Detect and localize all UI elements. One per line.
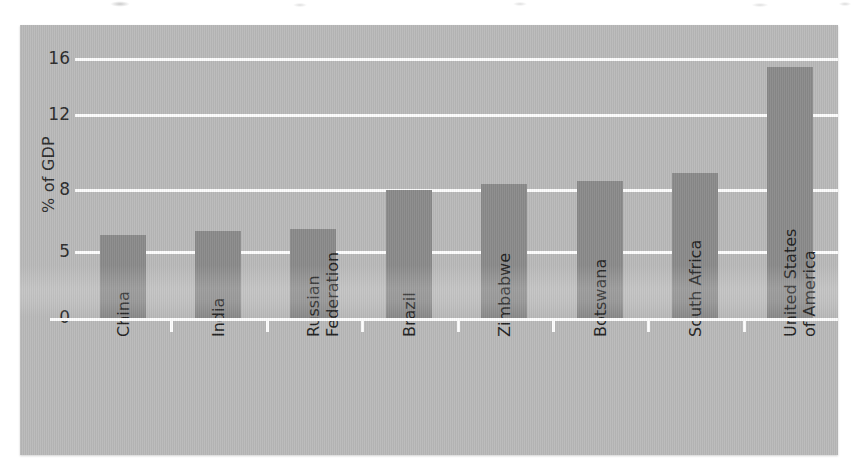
category-label: Botswana: [592, 187, 611, 337]
category-label: United States of America: [782, 187, 820, 337]
gridline-12: [75, 114, 838, 117]
x-axis-baseline: [50, 318, 838, 321]
chart-panel: % of GDP 1612850 ChinaIndiaRussian Feder…: [20, 25, 838, 455]
x-tick: [552, 318, 555, 332]
gridline-16: [75, 58, 838, 61]
x-tick: [361, 318, 364, 332]
gridline-8: [75, 189, 838, 192]
y-tick-label-5: 5: [26, 243, 70, 260]
x-tick: [170, 318, 173, 332]
category-label: China: [115, 187, 134, 337]
gridline-5: [75, 251, 838, 254]
x-tick: [743, 318, 746, 332]
category-label: Brazil: [401, 187, 420, 337]
y-tick-label-8: 8: [26, 181, 70, 198]
y-tick-label-16: 16: [26, 50, 70, 67]
x-tick: [647, 318, 650, 332]
category-label: South Africa: [687, 187, 706, 337]
category-label: India: [210, 187, 229, 337]
x-tick: [266, 318, 269, 332]
y-axis-title: % of GDP: [39, 105, 58, 245]
y-tick-label-12: 12: [26, 106, 70, 123]
category-label: Zimbabwe: [496, 187, 515, 337]
scan-artifact-top: [0, 0, 866, 20]
plot-area: % of GDP 1612850 ChinaIndiaRussian Feder…: [20, 25, 838, 455]
category-label: Russian Federation: [305, 187, 343, 337]
x-tick: [457, 318, 460, 332]
